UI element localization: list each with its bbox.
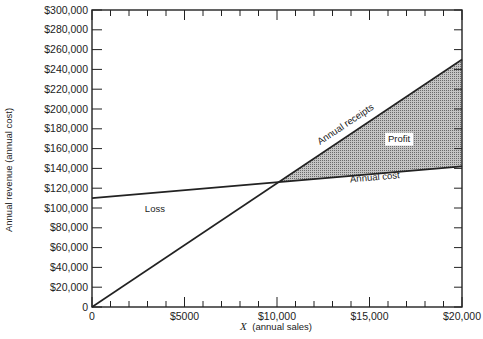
y-tick-label: $200,000 bbox=[44, 103, 88, 115]
loss-label: Loss bbox=[145, 203, 165, 214]
y-tick-label: $120,000 bbox=[44, 182, 88, 194]
profit-label: Profit bbox=[388, 133, 411, 144]
y-axis-label: Annual revenue (annual cost) bbox=[3, 108, 14, 232]
y-tick-label: $160,000 bbox=[44, 142, 88, 154]
x-axis-label: X (annual sales) bbox=[239, 320, 312, 332]
y-tick-label: $140,000 bbox=[44, 162, 88, 174]
y-tick-label: $100,000 bbox=[44, 202, 88, 214]
x-tick-label: $20,000 bbox=[443, 310, 481, 322]
x-tick-label: 0 bbox=[89, 310, 95, 322]
y-tick-label: $260,000 bbox=[44, 43, 88, 55]
y-tick-label: $280,000 bbox=[44, 23, 88, 35]
y-tick-label: $40,000 bbox=[50, 261, 88, 273]
x-tick-label: $15,000 bbox=[351, 310, 389, 322]
annual-cost-line bbox=[92, 166, 462, 198]
y-tick-label: $300,000 bbox=[44, 4, 88, 16]
y-tick-label: $220,000 bbox=[44, 83, 88, 95]
y-tick-label: $20,000 bbox=[50, 281, 88, 293]
break-even-chart: 0$20,000$40,000$60,000$80,000$100,000$12… bbox=[0, 0, 483, 339]
y-tick-label: $60,000 bbox=[50, 241, 88, 253]
y-tick-label: $240,000 bbox=[44, 63, 88, 75]
series-lines bbox=[92, 60, 462, 308]
y-tick-label: 0 bbox=[82, 301, 88, 313]
x-axis-desc: (annual sales) bbox=[252, 321, 312, 332]
y-tick-label: $80,000 bbox=[50, 221, 88, 233]
annual-receipts-line bbox=[92, 60, 462, 308]
y-tick-label: $180,000 bbox=[44, 122, 88, 134]
x-variable: X bbox=[239, 320, 248, 332]
x-tick-label: $5000 bbox=[170, 310, 199, 322]
